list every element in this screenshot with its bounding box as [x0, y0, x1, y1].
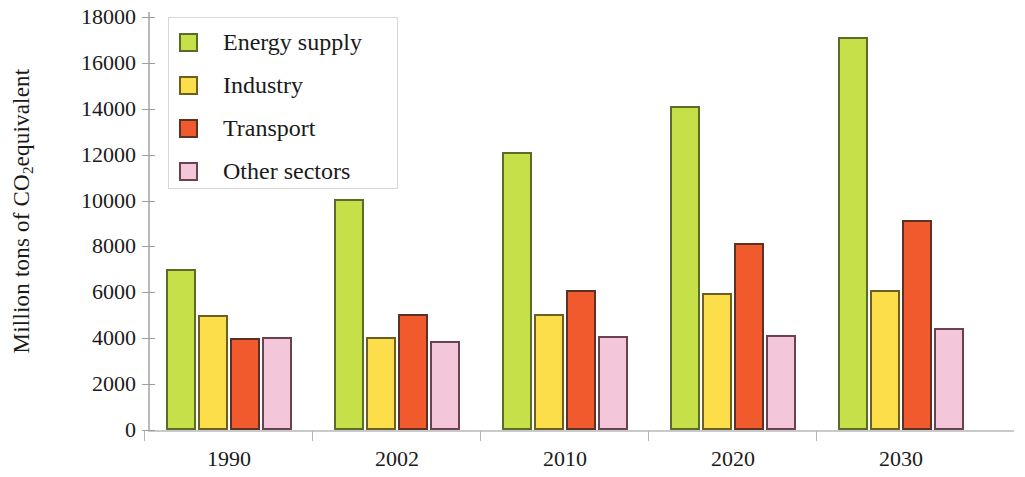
bar-other: [598, 336, 628, 430]
y-axis-tick-mark: [142, 292, 155, 293]
y-axis-tick-mark: [142, 338, 155, 339]
bar-group: [838, 0, 964, 430]
x-axis-tick-mark: [312, 431, 313, 441]
bar-energy: [502, 152, 532, 430]
y-axis-tick-label: 8000: [52, 235, 136, 257]
x-axis-label: 2002: [337, 446, 457, 472]
y-axis-tick-label: 10000: [52, 190, 136, 212]
y-axis-tick-mark: [142, 246, 155, 247]
bar-group: [670, 0, 796, 430]
y-axis-title: Million tons of CO2equivalent: [9, 1, 35, 421]
bar-other: [262, 337, 292, 430]
bar-energy: [166, 269, 196, 430]
bar-group: [502, 0, 628, 430]
bar-industry: [534, 314, 564, 430]
y-axis-tick-mark: [142, 155, 155, 156]
y-axis-title-text-before: Million tons of CO: [9, 174, 34, 353]
x-axis-label: 1990: [169, 446, 289, 472]
y-axis-tick-labels: 1800016000140001200010000800060004000200…: [52, 0, 136, 440]
legend-swatch-other: [179, 162, 198, 181]
y-axis-title-subscript: 2: [20, 166, 36, 174]
x-axis-label: 2010: [505, 446, 625, 472]
bar-transport: [734, 243, 764, 430]
bar-transport: [566, 290, 596, 430]
bar-other: [430, 341, 460, 430]
legend-label: Industry: [223, 72, 303, 99]
legend-label: Transport: [223, 115, 315, 142]
bar-energy: [670, 106, 700, 430]
x-axis-label: 2020: [673, 446, 793, 472]
bar-transport: [398, 314, 428, 430]
y-axis-tick-mark: [142, 384, 155, 385]
y-axis-tick-label: 12000: [52, 144, 136, 166]
legend-item[interactable]: Transport: [179, 115, 315, 142]
y-axis-tick-mark: [142, 201, 155, 202]
legend-item[interactable]: Industry: [179, 72, 303, 99]
y-axis-tick-label: 4000: [52, 327, 136, 349]
bar-industry: [870, 290, 900, 430]
bar-energy: [334, 199, 364, 430]
bar-industry: [366, 337, 396, 430]
y-axis-tick-label: 14000: [52, 98, 136, 120]
y-axis-tick-mark: [142, 63, 155, 64]
y-axis-tick-label: 2000: [52, 373, 136, 395]
bar-other: [934, 328, 964, 430]
y-axis-tick-mark: [142, 17, 155, 18]
y-axis-title-text-after: equivalent: [9, 69, 34, 167]
bar-transport: [230, 338, 260, 430]
x-axis-tick-mark: [480, 431, 481, 441]
legend-label: Energy supply: [223, 29, 362, 56]
bar-industry: [198, 315, 228, 430]
legend-swatch-energy: [179, 33, 198, 52]
y-axis-tick-label: 16000: [52, 52, 136, 74]
x-axis-tick-mark: [144, 431, 145, 441]
legend-item[interactable]: Energy supply: [179, 29, 362, 56]
legend-item[interactable]: Other sectors: [179, 158, 350, 185]
y-axis-tick-label: 18000: [52, 6, 136, 28]
bar-other: [766, 335, 796, 430]
legend-swatch-industry: [179, 76, 198, 95]
y-axis-tick-label: 6000: [52, 281, 136, 303]
y-axis-tick-label: 0: [52, 419, 136, 441]
chart-legend: Energy supplyIndustryTransportOther sect…: [168, 17, 398, 189]
legend-label: Other sectors: [223, 158, 350, 185]
bar-industry: [702, 293, 732, 430]
bar-chart: Million tons of CO2equivalent 1800016000…: [0, 0, 1025, 477]
bar-transport: [902, 220, 932, 430]
y-axis-tick-mark: [142, 109, 155, 110]
x-axis-tick-mark: [816, 431, 817, 441]
legend-swatch-transport: [179, 119, 198, 138]
x-axis-tick-mark: [648, 431, 649, 441]
bar-energy: [838, 37, 868, 430]
x-axis-label: 2030: [841, 446, 961, 472]
